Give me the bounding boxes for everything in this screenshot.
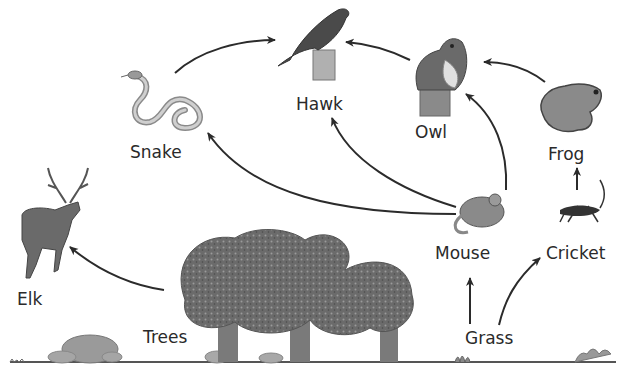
mouse-icon [455, 194, 504, 233]
label-elk: Elk [17, 289, 42, 309]
food-web-diagram: Hawk Owl Frog Snake Mouse Cricket Elk Tr… [0, 0, 621, 381]
label-hawk: Hawk [296, 94, 343, 114]
owl-icon [416, 39, 467, 116]
snake-icon [121, 71, 200, 128]
label-owl: Owl [415, 122, 447, 142]
arrow-frog-to-owl [484, 62, 545, 82]
label-grass: Grass [465, 328, 513, 348]
diagram-canvas [0, 0, 621, 381]
hawk-icon [278, 9, 349, 80]
arrow-grass-to-cricket [499, 258, 540, 325]
arrow-mouse-to-snake [208, 133, 456, 214]
arrow-owl-to-hawk [346, 42, 410, 60]
label-trees: Trees [143, 327, 187, 347]
label-cricket: Cricket [546, 243, 605, 263]
frog-icon [541, 84, 601, 132]
label-snake: Snake [130, 142, 182, 162]
arrow-snake-to-hawk [175, 40, 275, 73]
trees-icon [181, 230, 413, 362]
arrow-trees-to-elk [70, 247, 164, 290]
elk-icon [22, 168, 88, 278]
label-frog: Frog [548, 144, 584, 164]
grass-icon [455, 349, 611, 362]
label-mouse: Mouse [435, 243, 490, 263]
arrow-mouse-to-owl [466, 94, 506, 190]
cricket-icon [560, 180, 604, 222]
